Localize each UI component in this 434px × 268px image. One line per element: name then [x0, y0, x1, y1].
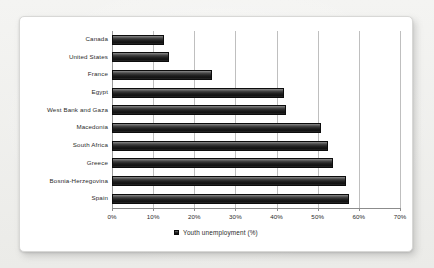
x-tick — [277, 208, 278, 211]
bar — [112, 52, 169, 62]
bar — [112, 70, 212, 80]
x-tick — [318, 208, 319, 211]
legend-label: Youth unemployment (%) — [183, 229, 258, 236]
legend-swatch-icon — [174, 230, 179, 235]
bar — [112, 88, 284, 98]
bar-series: CanadaUnited StatesFranceEgyptWest Bank … — [20, 31, 412, 208]
bar — [112, 194, 349, 204]
bar — [112, 158, 333, 168]
category-label: United States — [0, 50, 108, 64]
category-label: France — [0, 67, 108, 81]
chart-legend: Youth unemployment (%) — [20, 229, 412, 236]
x-tick-label: 50% — [311, 213, 324, 220]
chart-plot-area: CanadaUnited StatesFranceEgyptWest Bank … — [20, 17, 412, 251]
x-tick — [400, 208, 401, 211]
bar — [112, 141, 328, 151]
bar-row: Bosnia-Herzegovina — [20, 173, 412, 191]
bar — [112, 176, 346, 186]
chart-card: CanadaUnited StatesFranceEgyptWest Bank … — [19, 16, 413, 252]
bar-row: Macedonia — [20, 119, 412, 137]
category-label: Spain — [0, 191, 108, 205]
bar — [112, 35, 164, 45]
category-label: Greece — [0, 156, 108, 170]
x-tick-label: 10% — [147, 213, 160, 220]
x-tick-label: 0% — [107, 213, 116, 220]
x-tick — [235, 208, 236, 211]
bar-row: Spain — [20, 190, 412, 208]
category-label: South Africa — [0, 138, 108, 152]
category-label: Macedonia — [0, 120, 108, 134]
bar-row: France — [20, 66, 412, 84]
bar — [112, 123, 321, 133]
x-tick-label: 40% — [270, 213, 283, 220]
bar-row: Canada — [20, 31, 412, 49]
bar — [112, 105, 286, 115]
bar-row: Egypt — [20, 84, 412, 102]
bar-row: South Africa — [20, 137, 412, 155]
bar-row: United States — [20, 49, 412, 67]
category-label: Canada — [0, 32, 108, 46]
category-label: Egypt — [0, 85, 108, 99]
page-background: CanadaUnited StatesFranceEgyptWest Bank … — [0, 0, 434, 268]
bar-row: West Bank and Gaza — [20, 102, 412, 120]
category-label: Bosnia-Herzegovina — [0, 174, 108, 188]
x-tick — [153, 208, 154, 211]
x-tick-label: 70% — [394, 213, 407, 220]
x-tick — [359, 208, 360, 211]
x-tick-label: 20% — [188, 213, 201, 220]
x-tick — [112, 208, 113, 211]
x-axis-line — [112, 208, 400, 209]
x-tick-label: 30% — [229, 213, 242, 220]
x-tick-label: 60% — [353, 213, 366, 220]
x-tick — [194, 208, 195, 211]
bar-row: Greece — [20, 155, 412, 173]
category-label: West Bank and Gaza — [0, 103, 108, 117]
